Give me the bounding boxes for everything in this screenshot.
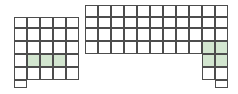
grid-cell-outline[interactable] — [151, 42, 163, 54]
grid-cell-outline[interactable] — [54, 18, 66, 28]
grid-cell-outline[interactable] — [164, 6, 176, 17]
grid-cell-outline[interactable] — [216, 81, 228, 88]
grid-cell-outline[interactable] — [125, 42, 137, 54]
grid-cell-highlighted[interactable] — [215, 41, 228, 54]
grid-cell-outline[interactable] — [125, 6, 137, 17]
grid-cell-outline[interactable] — [99, 6, 111, 17]
grid-cell-outline[interactable] — [41, 18, 53, 28]
grid-cell-highlighted[interactable] — [202, 54, 215, 67]
grid-cell-outline[interactable] — [28, 18, 40, 28]
grid-cell-outline[interactable] — [138, 18, 150, 28]
grid-cell-outline[interactable] — [86, 18, 98, 28]
grid-cell-outline[interactable] — [125, 29, 137, 41]
grid-cell-outline[interactable] — [15, 68, 27, 80]
grid-cell-outline[interactable] — [164, 18, 176, 28]
grid-cell-highlighted[interactable] — [202, 41, 215, 54]
cell-outline-layer — [15, 6, 228, 88]
grid-cell-outline[interactable] — [54, 42, 66, 54]
grid-cell-outline[interactable] — [41, 42, 53, 54]
grid-cell-outline[interactable] — [151, 18, 163, 28]
grid-cell-outline[interactable] — [41, 29, 53, 41]
stepped-grid-diagram — [0, 0, 238, 94]
grid-cell-outline[interactable] — [177, 29, 189, 41]
grid-cell-outline[interactable] — [15, 42, 27, 54]
grid-cell-outline[interactable] — [138, 29, 150, 41]
grid-cell-outline[interactable] — [164, 29, 176, 41]
grid-cell-outline[interactable] — [67, 18, 79, 28]
grid-cell-outline[interactable] — [41, 68, 53, 80]
grid-cell-outline[interactable] — [203, 6, 215, 17]
grid-cell-outline[interactable] — [67, 55, 79, 67]
grid-cell-outline[interactable] — [99, 42, 111, 54]
grid-cell-outline[interactable] — [190, 6, 202, 17]
grid-cell-highlighted[interactable] — [53, 54, 66, 67]
grid-cell-outline[interactable] — [151, 6, 163, 17]
grid-cell-outline[interactable] — [203, 18, 215, 28]
grid-canvas — [0, 0, 238, 94]
grid-cell-outline[interactable] — [99, 18, 111, 28]
grid-cell-outline[interactable] — [177, 6, 189, 17]
grid-cell-outline[interactable] — [203, 68, 215, 80]
grid-cell-outline[interactable] — [112, 18, 124, 28]
grid-cell-outline[interactable] — [15, 18, 27, 28]
grid-cell-outline[interactable] — [216, 29, 228, 41]
grid-cell-outline[interactable] — [216, 68, 228, 80]
grid-cell-outline[interactable] — [67, 42, 79, 54]
grid-cell-outline[interactable] — [54, 68, 66, 80]
grid-cell-outline[interactable] — [125, 18, 137, 28]
grid-cell-outline[interactable] — [112, 42, 124, 54]
grid-cell-outline[interactable] — [28, 29, 40, 41]
grid-cell-outline[interactable] — [190, 29, 202, 41]
grid-cell-outline[interactable] — [164, 42, 176, 54]
grid-cell-outline[interactable] — [203, 29, 215, 41]
grid-cell-outline[interactable] — [67, 29, 79, 41]
grid-cell-outline[interactable] — [190, 18, 202, 28]
grid-cell-outline[interactable] — [54, 29, 66, 41]
grid-cell-outline[interactable] — [86, 42, 98, 54]
grid-cell-outline[interactable] — [112, 6, 124, 17]
grid-cell-outline[interactable] — [28, 42, 40, 54]
grid-cell-outline[interactable] — [151, 29, 163, 41]
grid-cell-outline[interactable] — [216, 18, 228, 28]
grid-cell-outline[interactable] — [177, 18, 189, 28]
grid-cell-outline[interactable] — [67, 68, 79, 80]
grid-cell-outline[interactable] — [112, 29, 124, 41]
grid-cell-outline[interactable] — [86, 6, 98, 17]
grid-cell-outline[interactable] — [15, 55, 27, 67]
grid-cell-outline[interactable] — [138, 42, 150, 54]
grid-cell-highlighted[interactable] — [40, 54, 53, 67]
grid-cell-highlighted[interactable] — [27, 54, 40, 67]
grid-cell-outline[interactable] — [216, 6, 228, 17]
grid-cell-outline[interactable] — [99, 29, 111, 41]
grid-cell-outline[interactable] — [190, 42, 202, 54]
grid-cell-outline[interactable] — [138, 6, 150, 17]
grid-cell-outline[interactable] — [15, 29, 27, 41]
grid-cell-outline[interactable] — [28, 68, 40, 80]
grid-cell-outline[interactable] — [15, 81, 27, 88]
grid-cell-highlighted[interactable] — [215, 54, 228, 67]
grid-cell-outline[interactable] — [86, 29, 98, 41]
grid-cell-outline[interactable] — [177, 42, 189, 54]
